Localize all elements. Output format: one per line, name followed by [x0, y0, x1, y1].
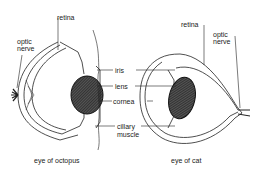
octopus-caption: eye of octopus — [34, 157, 80, 164]
shared-leader-lines — [95, 70, 176, 126]
ciliary-muscle-label-1: cillary — [117, 123, 135, 130]
octopus-optic-nerve-label-2: nerve — [17, 45, 35, 52]
lens-label: lens — [115, 83, 128, 90]
octopus-leader-lines — [17, 18, 58, 88]
ciliary-muscle-label-2: muscle — [117, 131, 139, 138]
cat-eye — [140, 54, 250, 143]
cornea-label: cornea — [113, 98, 134, 105]
iris-label: iris — [115, 67, 124, 74]
cat-optic-nerve-label-1: optic — [213, 31, 228, 38]
cat-retina-label: retina — [181, 21, 199, 28]
eye-comparison-diagram — [0, 0, 256, 171]
cat-lens — [165, 75, 199, 121]
octopus-retina-label: retina — [57, 14, 75, 21]
cat-optic-nerve-label-2: nerve — [213, 38, 231, 45]
octopus-optic-nerve-label-1: optic — [17, 38, 32, 45]
cat-caption: eye of cat — [171, 157, 201, 164]
